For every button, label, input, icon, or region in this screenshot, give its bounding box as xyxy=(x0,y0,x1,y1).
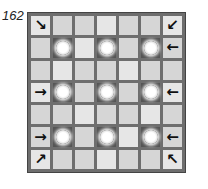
grid-cell[interactable] xyxy=(141,16,160,35)
grid-cell[interactable] xyxy=(141,83,160,102)
grid-cell[interactable] xyxy=(75,16,94,35)
sun-icon xyxy=(100,85,114,99)
grid-cell[interactable] xyxy=(31,105,50,124)
arrow-e-icon: → xyxy=(34,130,47,145)
grid-cell[interactable]: ← xyxy=(163,83,182,102)
arrow-sw-icon: ↙ xyxy=(166,18,179,33)
arrow-e-icon: → xyxy=(34,85,47,100)
grid-cell[interactable] xyxy=(53,127,72,146)
grid-cell[interactable] xyxy=(97,105,116,124)
grid-cell[interactable] xyxy=(119,127,138,146)
sun-icon xyxy=(56,85,70,99)
grid-cell[interactable] xyxy=(141,105,160,124)
puzzle-grid: ↘↙←→←→←↗↖ xyxy=(27,12,186,173)
grid-cell[interactable] xyxy=(53,61,72,80)
arrow-w-icon: ← xyxy=(166,130,179,145)
grid-cell[interactable] xyxy=(53,105,72,124)
grid-cell[interactable] xyxy=(141,127,160,146)
grid-cell[interactable] xyxy=(75,38,94,57)
grid-cell[interactable]: → xyxy=(31,83,50,102)
grid-cell[interactable]: ← xyxy=(163,38,182,57)
grid-cell[interactable] xyxy=(75,83,94,102)
grid-cell[interactable] xyxy=(53,83,72,102)
grid-cell[interactable]: ↗ xyxy=(31,150,50,169)
sun-icon xyxy=(100,130,114,144)
sun-icon xyxy=(144,41,158,55)
grid-cell[interactable] xyxy=(75,150,94,169)
sun-icon xyxy=(144,85,158,99)
grid-cell[interactable] xyxy=(53,150,72,169)
grid-cell[interactable] xyxy=(97,16,116,35)
grid-cell[interactable] xyxy=(141,150,160,169)
sun-icon xyxy=(144,130,158,144)
grid-cell[interactable]: → xyxy=(31,127,50,146)
sun-icon xyxy=(56,130,70,144)
grid-cell[interactable] xyxy=(97,38,116,57)
arrow-ne-icon: ↗ xyxy=(34,152,47,167)
grid-cell[interactable]: ← xyxy=(163,127,182,146)
arrow-w-icon: ← xyxy=(166,40,179,55)
grid-cell[interactable] xyxy=(53,16,72,35)
grid-cell[interactable] xyxy=(163,105,182,124)
grid-cell[interactable] xyxy=(31,38,50,57)
grid-cell[interactable]: ↖ xyxy=(163,150,182,169)
sun-icon xyxy=(56,41,70,55)
grid-cell[interactable] xyxy=(119,61,138,80)
grid-cell[interactable] xyxy=(97,61,116,80)
grid-cell[interactable] xyxy=(119,38,138,57)
arrow-nw-icon: ↖ xyxy=(166,152,179,167)
grid-cell[interactable] xyxy=(119,105,138,124)
grid-cell[interactable] xyxy=(97,83,116,102)
grid-cell[interactable]: ↙ xyxy=(163,16,182,35)
grid-cell[interactable] xyxy=(97,150,116,169)
grid-cell[interactable] xyxy=(119,83,138,102)
puzzle-number: 162 xyxy=(2,8,24,23)
grid-cell[interactable] xyxy=(119,150,138,169)
grid-cell[interactable] xyxy=(31,61,50,80)
grid-cell[interactable] xyxy=(53,38,72,57)
grid-cell[interactable] xyxy=(141,61,160,80)
arrow-w-icon: ← xyxy=(166,85,179,100)
sun-icon xyxy=(100,41,114,55)
grid-cell[interactable] xyxy=(75,105,94,124)
grid-cell[interactable] xyxy=(75,61,94,80)
grid-cell[interactable] xyxy=(141,38,160,57)
grid-cell[interactable]: ↘ xyxy=(31,16,50,35)
grid-cell[interactable] xyxy=(75,127,94,146)
grid-cell[interactable] xyxy=(163,61,182,80)
arrow-se-icon: ↘ xyxy=(34,18,47,33)
grid-cell[interactable] xyxy=(119,16,138,35)
grid-cell[interactable] xyxy=(97,127,116,146)
